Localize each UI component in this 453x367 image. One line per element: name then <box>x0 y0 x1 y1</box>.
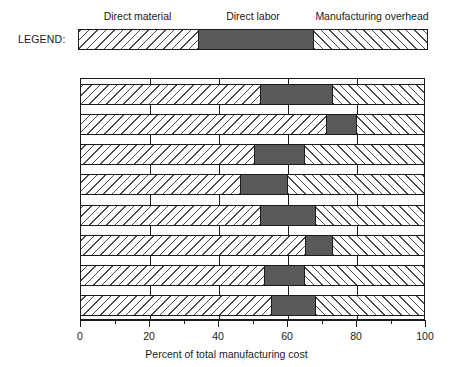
axis-tick-major <box>218 320 219 327</box>
bar-row <box>81 114 424 135</box>
bar-segment-overhead <box>333 85 424 104</box>
bar-segment-labor <box>260 206 315 225</box>
legend-segment-labor <box>198 30 314 49</box>
bar-row <box>81 265 424 286</box>
bar-segment-overhead <box>316 206 424 225</box>
stacked-bar <box>81 174 424 195</box>
axis-tick-label: 60 <box>281 330 293 342</box>
axis-tick-minor <box>253 320 254 324</box>
legend-label-row: Direct materialDirect laborManufacturing… <box>0 9 453 25</box>
bar-segment-overhead <box>288 175 424 194</box>
stacked-bar <box>81 114 424 135</box>
x-axis-title: Percent of total manufacturing cost <box>0 348 453 360</box>
bar-segment-material <box>81 296 271 315</box>
bar-segment-labor <box>240 175 288 194</box>
axis-tick-minor <box>115 320 116 324</box>
stacked-bar <box>81 265 424 286</box>
stacked-bar <box>81 235 424 256</box>
axis-tick-major <box>287 320 288 327</box>
bar-segment-overhead <box>333 236 424 255</box>
bar-segment-material <box>81 145 254 164</box>
stacked-bar <box>81 144 424 165</box>
axis-tick-label: 100 <box>416 330 434 342</box>
bar-segment-material <box>81 115 326 134</box>
bar-row <box>81 174 424 195</box>
bar-segment-labor <box>305 236 333 255</box>
bar-segment-material <box>81 236 305 255</box>
bar-segment-overhead <box>305 266 424 285</box>
bar-segment-material <box>81 206 260 225</box>
legend-segment-overhead <box>314 30 429 49</box>
bar-row <box>81 295 424 316</box>
axis-tick-minor <box>391 320 392 324</box>
bar-segment-labor <box>326 115 357 134</box>
bar-segment-labor <box>271 296 316 315</box>
stacked-bar <box>81 84 424 105</box>
axis-tick-label: 40 <box>212 330 224 342</box>
plot-area <box>80 78 425 320</box>
bar-segment-labor <box>260 85 332 104</box>
axis-tick-major <box>356 320 357 327</box>
legend-bar <box>78 29 428 50</box>
bar-segment-material <box>81 85 260 104</box>
axis-tick-major <box>425 320 426 327</box>
axis-tick-major <box>80 320 81 327</box>
bar-segment-labor <box>254 145 306 164</box>
stacked-bar <box>81 205 424 226</box>
axis-tick-label: 80 <box>350 330 362 342</box>
bar-segment-material <box>81 175 240 194</box>
axis-tick-label: 20 <box>143 330 155 342</box>
bar-segment-overhead <box>316 296 424 315</box>
bar-segment-labor <box>264 266 305 285</box>
bar-segment-material <box>81 266 264 285</box>
bar-segment-overhead <box>357 115 424 134</box>
legend-segment-material <box>79 30 198 49</box>
axis-tick-minor <box>322 320 323 324</box>
bar-segment-overhead <box>305 145 424 164</box>
stacked-bar-chart: Direct materialDirect laborManufacturing… <box>0 0 453 367</box>
bar-row <box>81 144 424 165</box>
axis-tick-minor <box>184 320 185 324</box>
axis-tick-major <box>149 320 150 327</box>
axis-tick-label: 0 <box>77 330 83 342</box>
bar-row <box>81 205 424 226</box>
legend-caption: LEGEND: <box>18 33 66 45</box>
stacked-bar <box>81 295 424 316</box>
legend-label: Manufacturing overhead <box>262 9 453 23</box>
bar-row <box>81 235 424 256</box>
bar-row <box>81 84 424 105</box>
